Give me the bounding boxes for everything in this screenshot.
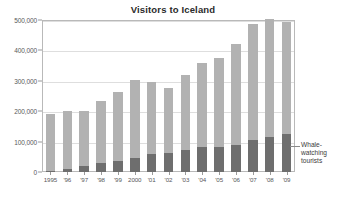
bars-layer [42,20,295,172]
x-tick-label: '97 [80,176,88,183]
x-tick-mark [219,172,220,175]
y-axis: 0100,000200,000300,000400,000500,000 [0,20,42,172]
x-tick-label: '05 [215,176,223,183]
x-tick-mark [101,172,102,175]
bar-total-visitors[interactable] [63,111,73,172]
y-tick-label: 200,000 [14,108,37,115]
x-tick-label: '02 [165,176,173,183]
x-tick-mark [253,172,254,175]
x-tick-mark [118,172,119,175]
x-tick-label: 1995 [44,176,57,183]
x-tick-label: '06 [232,176,240,183]
bar-whale-watching[interactable] [214,147,224,172]
annotation-line: tourists [301,157,346,165]
bar-total-visitors[interactable] [46,114,56,172]
bar-whale-watching[interactable] [96,163,106,172]
annotation-line: Whale- [301,141,346,149]
bar-group[interactable] [79,20,89,172]
bar-group[interactable] [130,20,140,172]
x-tick-mark [236,172,237,175]
whale-watching-annotation: Whale-watchingtourists [301,141,346,166]
bar-group[interactable] [181,20,191,172]
bar-whale-watching[interactable] [130,158,140,172]
x-tick-mark [270,172,271,175]
bar-group[interactable] [96,20,106,172]
bar-group[interactable] [113,20,123,172]
y-tick-label: 100,000 [14,138,37,145]
bar-group[interactable] [265,20,275,172]
x-tick-mark [202,172,203,175]
x-tick-mark [287,172,288,175]
y-tick-label: 0 [33,169,37,176]
bar-total-visitors[interactable] [96,101,106,172]
bar-whale-watching[interactable] [231,145,241,172]
x-tick-mark [50,172,51,175]
bar-whale-watching[interactable] [248,140,258,172]
annotation-leader-line [290,146,300,147]
bar-group[interactable] [46,20,56,172]
x-tick-label: '07 [249,176,257,183]
chart-container: Visitors to Iceland 0100,000200,000300,0… [0,0,346,201]
x-tick-label: '98 [97,176,105,183]
y-tick-label: 500,000 [14,17,37,24]
bar-whale-watching[interactable] [113,161,123,172]
x-tick-mark [152,172,153,175]
bar-whale-watching[interactable] [181,150,191,172]
x-tick-label: '04 [198,176,206,183]
x-tick-label: '96 [63,176,71,183]
annotation-line: watching [301,149,346,157]
bar-group[interactable] [63,20,73,172]
x-tick-mark [169,172,170,175]
bar-group[interactable] [164,20,174,172]
x-axis: 1995'96'97'98'992000'01'02'03'04'05'06'0… [42,172,295,192]
bar-total-visitors[interactable] [79,111,89,172]
bar-group[interactable] [214,20,224,172]
bar-group[interactable] [231,20,241,172]
bar-total-visitors[interactable] [113,92,123,172]
x-tick-label: '03 [181,176,189,183]
x-tick-label: '01 [148,176,156,183]
bar-group[interactable] [147,20,157,172]
x-tick-label: '08 [266,176,274,183]
bar-whale-watching[interactable] [164,153,174,172]
x-tick-mark [84,172,85,175]
bar-whale-watching[interactable] [197,147,207,172]
y-tick-label: 400,000 [14,47,37,54]
x-tick-mark [185,172,186,175]
bar-whale-watching[interactable] [265,137,275,172]
x-tick-mark [67,172,68,175]
bar-whale-watching[interactable] [282,134,292,172]
x-tick-mark [135,172,136,175]
bar-group[interactable] [282,20,292,172]
bar-group[interactable] [248,20,258,172]
x-tick-label: '99 [114,176,122,183]
bar-whale-watching[interactable] [147,154,157,172]
chart-title: Visitors to Iceland [0,4,346,15]
bar-group[interactable] [197,20,207,172]
x-tick-label: '09 [283,176,291,183]
y-tick-label: 300,000 [14,77,37,84]
x-tick-label: 2000 [128,176,141,183]
